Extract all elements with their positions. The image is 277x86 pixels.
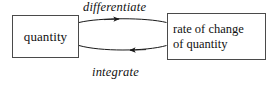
diagram-canvas: quantity rate of change of quantity diff… [0, 0, 277, 86]
node-rate-of-change-label: rate of change of quantity [173, 22, 244, 52]
edge-differentiate-arrowhead [104, 19, 119, 20]
edge-differentiate-curve [79, 19, 167, 23]
edge-label-differentiate: differentiate [83, 0, 146, 15]
edge-integrate-curve [79, 46, 167, 51]
edge-label-integrate: integrate [92, 65, 139, 80]
node-quantity-label: quantity [24, 29, 67, 44]
node-quantity: quantity [12, 15, 79, 58]
edge-integrate-arrowhead [130, 50, 146, 51]
node-rate-of-change: rate of change of quantity [167, 13, 266, 60]
